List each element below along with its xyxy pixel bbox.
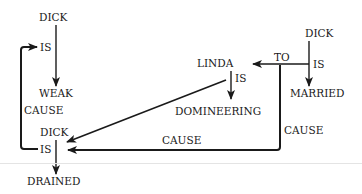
node-drained: DRAINED — [27, 175, 80, 187]
arrow-cause-left-loop — [21, 47, 38, 149]
label-cause-left: CAUSE — [24, 104, 63, 116]
divider-line — [0, 163, 362, 164]
label-to: TO — [274, 51, 290, 63]
node-dick-1: DICK — [39, 11, 68, 23]
semantic-network-diagram: DICK IS WEAK CAUSE DICK IS DRAINED LINDA… — [0, 0, 362, 194]
label-is-4: IS — [313, 58, 324, 70]
label-is-3: IS — [235, 72, 246, 84]
node-weak: WEAK — [39, 87, 73, 99]
node-dick-3: DICK — [305, 27, 334, 39]
node-linda: LINDA — [197, 57, 234, 69]
label-is-1: IS — [40, 41, 51, 53]
label-cause-right: CAUSE — [284, 124, 323, 136]
label-is-2: IS — [40, 143, 51, 155]
node-married: MARRIED — [290, 87, 344, 99]
diagram-canvas: DICK IS WEAK CAUSE DICK IS DRAINED LINDA… — [0, 0, 362, 194]
node-domineering: DOMINEERING — [175, 105, 261, 117]
node-dick-2: DICK — [40, 126, 69, 138]
label-cause-bottom: CAUSE — [162, 134, 201, 146]
